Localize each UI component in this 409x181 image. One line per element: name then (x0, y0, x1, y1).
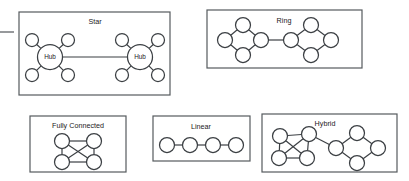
edge-ring-right-top-to-ring-right-west (297, 30, 305, 36)
node-fc-bottom-right (87, 155, 102, 170)
node-hyb-fc-bottom-left (272, 151, 287, 166)
edge-hyb-ring-bottom-to-hyb-ring-east (363, 152, 372, 158)
node-hyb-ring-west (329, 141, 344, 156)
edge-hyb-ring-top-to-hyb-ring-east (363, 137, 372, 143)
node-leaf-right-bottom-right (152, 69, 165, 82)
node-lin-node-1 (160, 138, 175, 153)
node-leaf-left-top-right (62, 34, 75, 47)
node-hyb-ring-bottom (350, 156, 365, 171)
node-fc-bottom-left (55, 155, 70, 170)
edge-hub-left-to-leaf-left-bottom-left (37, 66, 42, 71)
node-hyb-ring-east (371, 141, 386, 156)
node-ring-right-east (324, 33, 339, 48)
topology-panel-fully-connected: Fully Connected (30, 116, 126, 172)
edge-hyb-fc-top-right-to-hyb-fc-bottom-right (308, 141, 309, 150)
edge-hub-left-to-leaf-left-bottom-right (59, 66, 64, 71)
node-ring-left-top (236, 18, 251, 33)
edge-ring-right-top-to-ring-right-east (317, 30, 325, 36)
topology-panel-hybrid: Hybrid (262, 114, 397, 172)
edge-hub-left-to-leaf-left-top-left (37, 44, 41, 48)
node-lin-node-3 (206, 138, 221, 153)
topology-panel-ring: Ring (207, 10, 362, 68)
edge-ring-left-bottom-to-ring-left-east (249, 45, 255, 50)
edge-hyb-fc-top-right-to-hyb-fc-bottom-left (285, 139, 303, 154)
node-ring-left-bottom (236, 48, 251, 63)
topology-panel-star: HubHubStar (19, 12, 170, 95)
node-label-hub-left: Hub (44, 53, 56, 60)
node-label-hub-right: Hub (134, 53, 146, 60)
topology-panel-layer: HubHubStarRingFully ConnectedLinearHybri… (19, 10, 397, 172)
node-hyb-fc-top-right (302, 127, 317, 142)
edge-hyb-fc-top-left-to-hyb-fc-top-right (287, 135, 301, 136)
edge-ring-right-bottom-to-ring-right-east (317, 45, 325, 51)
node-hyb-ring-top (350, 126, 365, 141)
node-ring-left-west (218, 33, 233, 48)
node-lin-node-4 (229, 138, 244, 153)
edge-ring-left-bottom-to-ring-left-west (231, 45, 237, 50)
edge-hub-right-to-leaf-right-bottom-left (127, 66, 132, 71)
edge-hub-right-to-leaf-right-top-right (149, 44, 153, 48)
node-leaf-right-bottom-left (116, 69, 129, 82)
node-hyb-fc-top-left (273, 129, 288, 144)
node-leaf-right-top-left (116, 34, 129, 47)
node-fc-top-right (87, 134, 102, 149)
node-group-hybrid (272, 126, 386, 171)
node-fc-top-left (55, 134, 70, 149)
panel-caption-hybrid: Hybrid (315, 119, 336, 128)
node-ring-right-west (284, 33, 299, 48)
edge-ring-left-top-to-ring-left-east (249, 30, 255, 35)
edge-hyb-ring-top-to-hyb-ring-west (342, 137, 351, 143)
edge-hub-right-to-leaf-right-bottom-right (149, 66, 154, 71)
edge-hub-right-to-leaf-right-top-left (127, 44, 131, 48)
node-ring-left-east (254, 33, 269, 48)
topology-panel-linear: Linear (153, 116, 250, 161)
node-hyb-fc-bottom-right (300, 151, 315, 166)
node-leaf-left-top-left (26, 34, 39, 47)
edge-hyb-ring-bottom-to-hyb-ring-west (342, 152, 351, 158)
node-leaf-left-bottom-left (26, 69, 39, 82)
edge-ring-right-bottom-to-ring-right-west (297, 45, 305, 51)
node-ring-right-top (304, 18, 319, 33)
topology-canvas: HubHubStarRingFully ConnectedLinearHybri… (0, 0, 409, 181)
edge-ring-left-top-to-ring-left-west (231, 30, 237, 35)
panel-caption-ring: Ring (277, 16, 292, 25)
edge-hub-left-to-leaf-left-top-right (59, 44, 63, 48)
node-leaf-right-top-right (152, 34, 165, 47)
node-lin-node-2 (183, 138, 198, 153)
node-leaf-left-bottom-right (62, 69, 75, 82)
panel-caption-linear: Linear (191, 122, 212, 131)
edge-hyb-fc-top-right-to-hyb-ring-west (316, 137, 330, 144)
panel-caption-fully-connected: Fully Connected (52, 121, 104, 130)
network-topology-diagram: HubHubStarRingFully ConnectedLinearHybri… (0, 0, 409, 181)
panel-caption-star: Star (88, 17, 102, 26)
node-ring-right-bottom (304, 48, 319, 63)
